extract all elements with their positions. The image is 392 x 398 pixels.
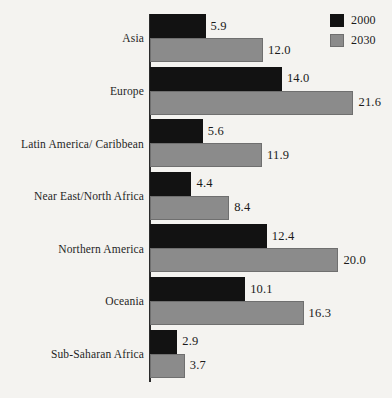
- bar-value-label: 11.9: [262, 143, 289, 167]
- bar-2030: [150, 91, 353, 115]
- bar-2030: [150, 38, 263, 62]
- bar-2000: [150, 14, 206, 38]
- category-label: Europe: [0, 67, 144, 117]
- category-label: Sub-Saharan Africa: [0, 330, 144, 380]
- bar-group: 2.93.7: [150, 330, 392, 380]
- bar-2000: [150, 67, 282, 91]
- bar-value-label: 2.9: [177, 330, 198, 354]
- bar-group: 5.611.9: [150, 119, 392, 169]
- legend-item-2000: 2000: [330, 12, 388, 29]
- bar-2000: [150, 119, 203, 143]
- bar-value-label: 14.0: [282, 67, 310, 91]
- bar-group: 4.48.4: [150, 172, 392, 222]
- bar-value-label: 3.7: [185, 354, 206, 378]
- category-row: Northern America12.420.0: [0, 224, 392, 274]
- bar-2030: [150, 143, 262, 167]
- bar-value-label: 12.4: [267, 224, 295, 248]
- bar-group: 12.420.0: [150, 224, 392, 274]
- bar-value-label: 5.6: [203, 119, 224, 143]
- plot-area: Asia5.912.0Europe14.021.6Latin America/ …: [0, 0, 392, 398]
- category-label: Northern America: [0, 224, 144, 274]
- bar-2030: [150, 248, 338, 272]
- legend-label-2030: 2030: [351, 33, 376, 48]
- bar-2000: [150, 172, 191, 196]
- legend-item-2030: 2030: [330, 32, 388, 49]
- category-row: Latin America/ Caribbean5.611.9: [0, 119, 392, 169]
- bar-value-label: 12.0: [263, 38, 291, 62]
- category-label: Latin America/ Caribbean: [0, 119, 144, 169]
- bar-2030: [150, 354, 185, 378]
- bar-2030: [150, 196, 229, 220]
- bar-value-label: 20.0: [338, 248, 366, 272]
- legend-swatch-2000-icon: [330, 14, 344, 27]
- bar-2030: [150, 301, 304, 325]
- bar-2000: [150, 224, 267, 248]
- bar-group: 10.116.3: [150, 277, 392, 327]
- category-label: Asia: [0, 14, 144, 64]
- bar-value-label: 8.4: [229, 196, 250, 220]
- bar-chart: Asia5.912.0Europe14.021.6Latin America/ …: [0, 0, 392, 398]
- chart-legend: 2000 2030: [330, 12, 388, 52]
- bar-value-label: 21.6: [353, 91, 381, 115]
- bar-2000: [150, 330, 177, 354]
- bar-value-label: 16.3: [304, 301, 332, 325]
- bar-group: 14.021.6: [150, 67, 392, 117]
- bar-value-label: 5.9: [206, 14, 227, 38]
- legend-swatch-2030-icon: [330, 34, 344, 47]
- legend-label-2000: 2000: [351, 13, 376, 28]
- category-row: Near East/North Africa4.48.4: [0, 172, 392, 222]
- bar-value-label: 10.1: [245, 277, 273, 301]
- category-label: Oceania: [0, 277, 144, 327]
- category-row: Europe14.021.6: [0, 67, 392, 117]
- category-row: Sub-Saharan Africa2.93.7: [0, 330, 392, 380]
- category-row: Oceania10.116.3: [0, 277, 392, 327]
- category-label: Near East/North Africa: [0, 172, 144, 222]
- bar-2000: [150, 277, 245, 301]
- bar-value-label: 4.4: [191, 172, 212, 196]
